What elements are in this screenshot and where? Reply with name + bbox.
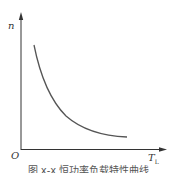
x-axis-label: TL (148, 153, 159, 165)
origin-label: O (11, 151, 19, 161)
x-axis-arrow-icon (159, 147, 167, 151)
y-axis-arrow-icon (19, 12, 23, 20)
load-curve (34, 45, 127, 137)
y-axis-label: n (8, 21, 14, 31)
chart-figure: n O TL 图 x-x 恒功率负载特性曲线 (0, 0, 177, 173)
figure-caption: 图 x-x 恒功率负载特性曲线 (0, 166, 177, 173)
chart-plot (0, 0, 177, 173)
